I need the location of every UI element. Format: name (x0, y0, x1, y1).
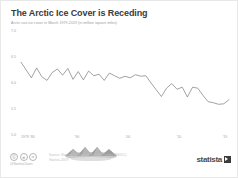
statista-logo[interactable]: statista (196, 155, 231, 164)
series-line (21, 62, 229, 104)
page-title: The Arctic Ice Cover is Receding (11, 8, 227, 18)
x-tick-label: '10 (177, 135, 182, 139)
chart-subtitle: Arctic sea ice cover in March 1979-2019 … (11, 20, 227, 26)
x-tick-label: '19 (223, 135, 228, 139)
chart-area: 7.0 6.5 6.0 5.5 5.0 1979 '80 '90 '00 '10… (1, 29, 238, 141)
chart-footer: © ● = @StatistaCharts Source: National S… (1, 149, 238, 178)
source-line-2: Statista 2019 (49, 158, 174, 163)
nd-icon: = (29, 153, 37, 161)
source-note: Source: National Snow and Ice Data Cente… (49, 153, 174, 162)
x-tick-label: 1979 '80 (21, 135, 35, 139)
cc-icon-group: © ● = (10, 153, 44, 161)
plot-region (21, 31, 229, 135)
play-mark-icon (224, 156, 231, 163)
ice-cover-line-chart (21, 31, 229, 135)
statista-charts-handle: @StatistaCharts (10, 162, 44, 166)
creative-commons-block: © ● = @StatistaCharts (10, 153, 44, 166)
by-icon: ● (20, 153, 28, 161)
x-axis-labels: 1979 '80 '90 '00 '10 '19 (1, 135, 238, 145)
chart-header: The Arctic Ice Cover is Receding Arctic … (1, 1, 237, 26)
statista-wordmark: statista (196, 155, 222, 164)
x-tick-label: '90 (75, 135, 80, 139)
cc-icon: © (10, 153, 18, 161)
statista-infographic: The Arctic Ice Cover is Receding Arctic … (0, 0, 238, 178)
x-tick-label: '00 (126, 135, 131, 139)
